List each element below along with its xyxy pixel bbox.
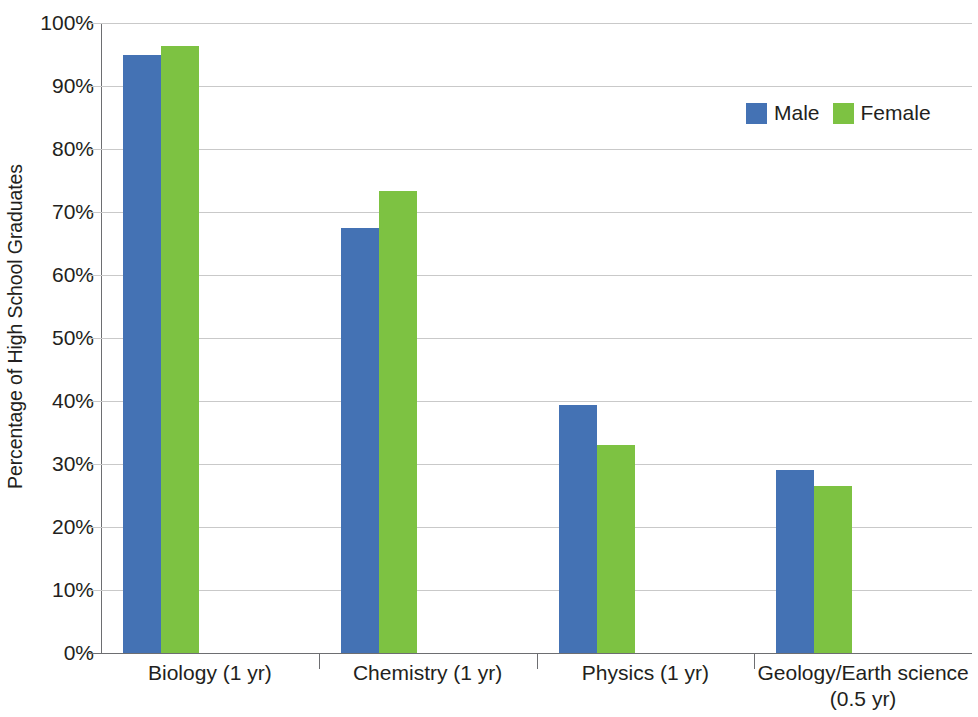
legend-entry-female[interactable]: Female xyxy=(833,101,931,125)
bar-female-1 xyxy=(161,46,199,653)
bar-male-3 xyxy=(559,405,597,653)
y-axis-tick-label: 0% xyxy=(24,641,94,665)
y-axis-tick-label: 20% xyxy=(24,515,94,539)
y-axis-tick-mark xyxy=(89,653,101,654)
x-axis-category-label: Geology/Earth science(0.5 yr) xyxy=(754,660,972,712)
y-axis-tick-mark xyxy=(89,275,101,276)
x-axis-category-label-line: Biology (1 yr) xyxy=(101,660,319,686)
gridline xyxy=(101,401,972,402)
legend: MaleFemale xyxy=(746,101,931,125)
bar-female-4 xyxy=(814,486,852,653)
y-axis-tick-label: 10% xyxy=(24,578,94,602)
x-axis-category-label-line: (0.5 yr) xyxy=(754,686,972,712)
y-axis-tick-label: 70% xyxy=(24,200,94,224)
legend-swatch-male xyxy=(746,103,767,124)
bar-chart: Percentage of High School Graduates 0%10… xyxy=(0,0,978,717)
x-axis-category-label: Chemistry (1 yr) xyxy=(319,660,537,686)
y-axis-tick-label: 80% xyxy=(24,137,94,161)
legend-label-male: Male xyxy=(774,101,820,125)
y-axis-tick-mark xyxy=(89,23,101,24)
y-axis-tick-label: 60% xyxy=(24,263,94,287)
gridline xyxy=(101,86,972,87)
gridline xyxy=(101,464,972,465)
legend-entry-male[interactable]: Male xyxy=(746,101,820,125)
y-axis-tick-label: 40% xyxy=(24,389,94,413)
bar-male-4 xyxy=(776,470,814,653)
y-axis-tick-mark xyxy=(89,527,101,528)
legend-swatch-female xyxy=(833,103,854,124)
x-axis-category-label-line: Physics (1 yr) xyxy=(537,660,755,686)
y-axis-tick-label: 50% xyxy=(24,326,94,350)
bar-female-2 xyxy=(379,191,417,653)
bar-male-1 xyxy=(123,55,161,654)
y-axis-tick-label: 90% xyxy=(24,74,94,98)
bar-female-3 xyxy=(597,445,635,653)
x-axis-category-label-line: Geology/Earth science xyxy=(754,660,972,686)
gridline xyxy=(101,23,972,24)
gridline xyxy=(101,149,972,150)
y-axis-tick-mark xyxy=(89,149,101,150)
bar-male-2 xyxy=(341,228,379,653)
y-axis-tick-mark xyxy=(89,338,101,339)
x-axis-category-label: Physics (1 yr) xyxy=(537,660,755,686)
gridline xyxy=(101,338,972,339)
gridline xyxy=(101,212,972,213)
y-axis-tick-mark xyxy=(89,590,101,591)
y-axis-tick-mark xyxy=(89,86,101,87)
legend-label-female: Female xyxy=(861,101,931,125)
y-axis-tick-label: 30% xyxy=(24,452,94,476)
y-axis-tick-label: 100% xyxy=(24,11,94,35)
y-axis-tick-mark xyxy=(89,212,101,213)
y-axis-tick-mark xyxy=(89,401,101,402)
gridline xyxy=(101,275,972,276)
y-axis-tick-mark xyxy=(89,464,101,465)
x-axis-category-label: Biology (1 yr) xyxy=(101,660,319,686)
x-axis-category-label-line: Chemistry (1 yr) xyxy=(319,660,537,686)
